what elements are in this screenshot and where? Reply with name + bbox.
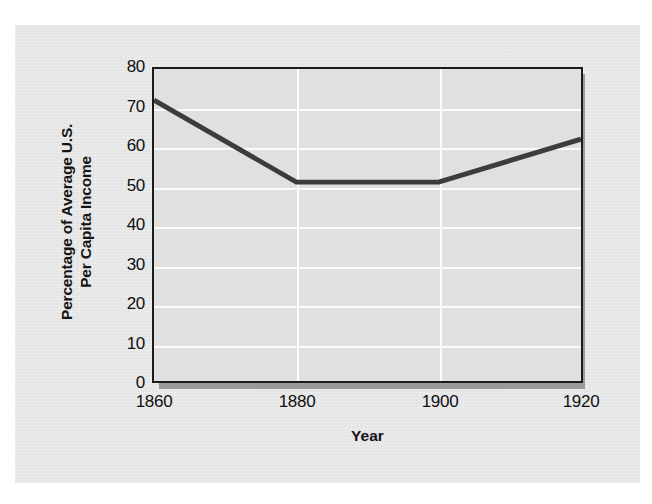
plot-area bbox=[152, 67, 583, 383]
x-tick-label: 1900 bbox=[400, 392, 480, 412]
y-tick-label: 60 bbox=[93, 136, 145, 156]
y-tick-label: 0 bbox=[93, 373, 145, 393]
y-tick-label: 30 bbox=[93, 255, 145, 275]
x-tick-label: 1920 bbox=[541, 392, 621, 412]
page-background: Percentage of Average U.S. Per Capita In… bbox=[0, 0, 652, 504]
y-tick-label: 10 bbox=[93, 334, 145, 354]
y-axis-title: Percentage of Average U.S. Per Capita In… bbox=[58, 67, 96, 377]
x-axis-tick-labels: 1860 1880 1900 1920 bbox=[152, 392, 583, 420]
y-tick-label: 40 bbox=[93, 215, 145, 235]
y-tick-label: 70 bbox=[93, 97, 145, 117]
y-tick-label: 20 bbox=[93, 294, 145, 314]
y-axis-tick-labels: 0 10 20 30 40 50 60 70 80 bbox=[93, 67, 145, 383]
line-chart: Percentage of Average U.S. Per Capita In… bbox=[0, 0, 652, 504]
y-tick-label: 50 bbox=[93, 176, 145, 196]
plot-inner bbox=[154, 69, 581, 381]
y-tick-label: 80 bbox=[93, 57, 145, 77]
x-tick-label: 1860 bbox=[114, 392, 194, 412]
data-series-line bbox=[154, 69, 581, 381]
y-axis-title-line1: Percentage of Average U.S. bbox=[58, 124, 75, 320]
x-tick-label: 1880 bbox=[257, 392, 337, 412]
x-axis-title: Year bbox=[152, 427, 583, 445]
